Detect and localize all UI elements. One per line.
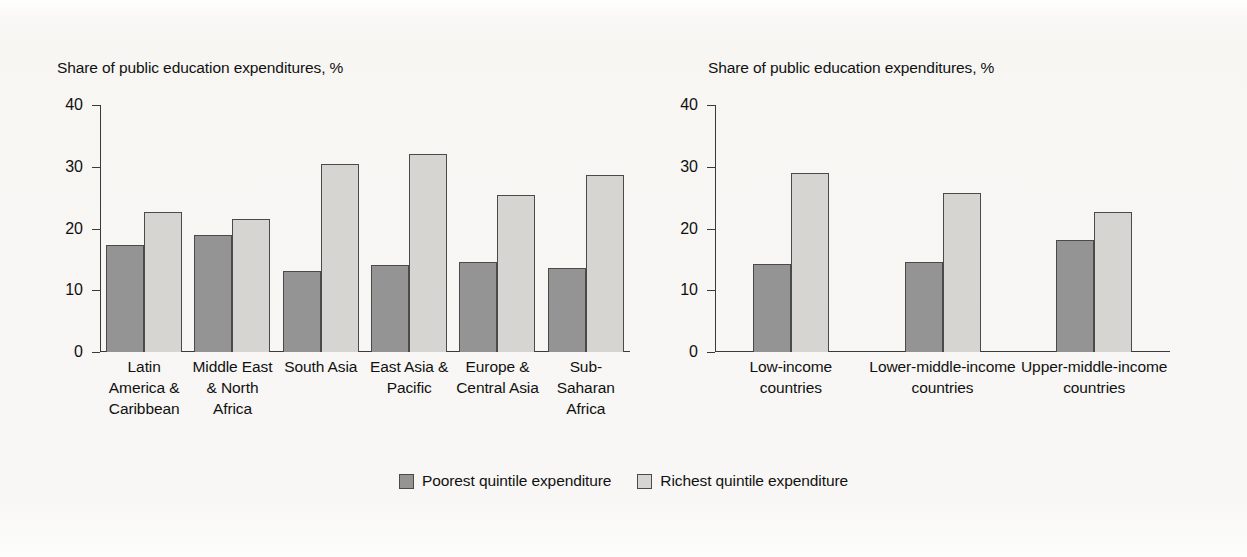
- legend-item: Richest quintile expenditure: [637, 472, 848, 490]
- bar-group: [453, 105, 541, 352]
- x-axis-category-label: Lower-middle-income countries: [867, 356, 1019, 398]
- y-axis-tick: 20: [92, 229, 100, 230]
- y-axis-tick-label: 10: [680, 280, 698, 300]
- y-axis-tick-label: 30: [680, 157, 698, 177]
- bar-group: [365, 105, 453, 352]
- bar-richest-quintile: [232, 219, 270, 352]
- y-axis-tick: 0: [707, 352, 715, 353]
- figure-canvas: Share of public education expenditures, …: [0, 0, 1247, 557]
- bar-group: [867, 105, 1019, 352]
- plot-area-income-groups: 010203040: [715, 105, 1170, 352]
- y-axis-tick-label: 10: [65, 280, 83, 300]
- x-axis-category-label: Sub-Saharan Africa: [542, 356, 630, 419]
- bar-group: [188, 105, 276, 352]
- legend-swatch-richest: [637, 474, 652, 489]
- bar-group: [542, 105, 630, 352]
- y-axis-tick-label: 40: [65, 95, 83, 115]
- y-axis-tick-label: 20: [65, 219, 83, 239]
- legend-label: Poorest quintile expenditure: [422, 472, 611, 490]
- y-axis-tick-label: 20: [680, 219, 698, 239]
- legend-label: Richest quintile expenditure: [660, 472, 848, 490]
- plot-area-regions: 010203040: [100, 105, 630, 352]
- x-axis-category-label: Europe & Central Asia: [453, 356, 541, 419]
- bar-richest-quintile: [586, 175, 624, 352]
- x-axis-category-label: Middle East & North Africa: [188, 356, 276, 419]
- bar-group-container: [715, 105, 1170, 352]
- bar-group-container: [100, 105, 630, 352]
- x-axis-category-label: South Asia: [277, 356, 365, 419]
- bar-poorest-quintile: [459, 262, 497, 352]
- y-axis-tick: 30: [707, 167, 715, 168]
- bar-richest-quintile: [791, 173, 829, 352]
- y-axis-title: Share of public education expenditures, …: [57, 59, 343, 77]
- bar-richest-quintile: [409, 154, 447, 352]
- x-axis-category-label: Low-income countries: [715, 356, 867, 398]
- y-axis-tick-label: 0: [689, 342, 698, 362]
- x-axis-category-label: Upper-middle-income countries: [1018, 356, 1170, 398]
- legend-item: Poorest quintile expenditure: [399, 472, 611, 490]
- x-axis-category-label: Latin America & Caribbean: [100, 356, 188, 419]
- y-axis-tick: 20: [707, 229, 715, 230]
- y-axis-title: Share of public education expenditures, …: [708, 59, 994, 77]
- y-axis-tick-label: 30: [65, 157, 83, 177]
- bar-richest-quintile: [321, 164, 359, 352]
- bar-poorest-quintile: [371, 265, 409, 352]
- y-axis-tick: 40: [707, 105, 715, 106]
- y-axis-tick: 40: [92, 105, 100, 106]
- bar-group: [100, 105, 188, 352]
- legend-swatch-poorest: [399, 474, 414, 489]
- bar-poorest-quintile: [194, 235, 232, 352]
- y-axis-tick: 30: [92, 167, 100, 168]
- bar-poorest-quintile: [283, 271, 321, 352]
- y-axis-tick-label: 40: [680, 95, 698, 115]
- bar-richest-quintile: [497, 195, 535, 352]
- bar-poorest-quintile: [548, 268, 586, 352]
- y-axis-tick: 0: [92, 352, 100, 353]
- x-axis-category-labels: Low-income countriesLower-middle-income …: [715, 356, 1170, 398]
- y-axis-tick-label: 0: [74, 342, 83, 362]
- bar-poorest-quintile: [905, 262, 943, 352]
- bar-group: [715, 105, 867, 352]
- x-axis-category-labels: Latin America & CaribbeanMiddle East & N…: [100, 356, 630, 419]
- y-axis-tick: 10: [707, 290, 715, 291]
- chart-panel-regions: Share of public education expenditures, …: [0, 0, 660, 470]
- bar-poorest-quintile: [106, 245, 144, 352]
- bar-poorest-quintile: [1056, 240, 1094, 352]
- chart-legend: Poorest quintile expenditureRichest quin…: [0, 472, 1247, 490]
- x-axis-category-label: East Asia & Pacific: [365, 356, 453, 419]
- bar-group: [277, 105, 365, 352]
- bar-richest-quintile: [144, 212, 182, 352]
- bar-poorest-quintile: [753, 264, 791, 352]
- bar-richest-quintile: [943, 193, 981, 352]
- bar-group: [1018, 105, 1170, 352]
- y-axis-tick: 10: [92, 290, 100, 291]
- bar-richest-quintile: [1094, 212, 1132, 352]
